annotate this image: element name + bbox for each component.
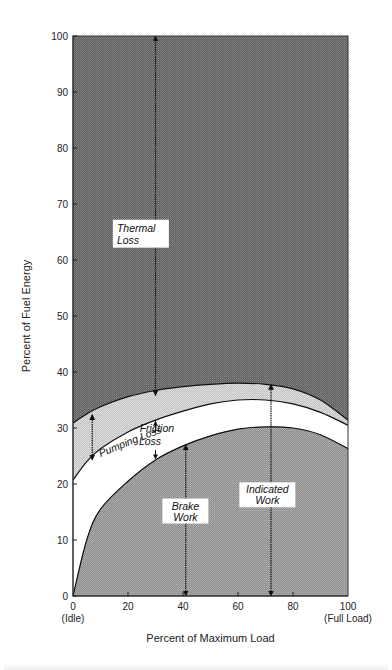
x-tick-sublabel-idle: (Idle) [62,613,85,624]
y-tick-label: 70 [57,199,69,210]
y-tick-label: 0 [62,591,68,602]
brake-work-label-line2: Work [173,511,198,523]
y-axis-title: Percent of Fuel Energy [20,259,32,372]
y-tick-label: 50 [57,311,69,322]
brake-work-label: Brake Work [162,499,208,524]
y-tick-label: 100 [51,31,68,42]
y-tick-label: 80 [57,143,69,154]
indicated-work-label: Indicated Work [239,482,295,507]
x-tick-label: 80 [287,601,299,612]
x-tick-label: 60 [232,601,244,612]
y-tick-label: 20 [57,479,69,490]
fuel-energy-chart: 0102030405060708090100 020406080100 Perc… [0,0,392,670]
thermal-loss-label-line1: Thermal [117,222,156,234]
x-axis-title: Percent of Maximum Load [146,632,274,644]
thermal-loss-label: Thermal Loss [113,220,169,248]
y-tick-label: 90 [57,87,69,98]
x-tick-label: 0 [70,601,76,612]
x-tick-label: 40 [177,601,189,612]
friction-loss-label-line2: Loss [139,435,162,447]
y-tick-label: 60 [57,255,69,266]
indicated-work-label-line2: Work [255,494,280,506]
friction-loss-label-line1: Friction [140,422,175,434]
thermal-loss-label-line2: Loss [117,234,140,246]
cut-off-caption [4,664,388,670]
y-tick-label: 10 [57,535,69,546]
x-tick-sublabel-full-load: (Full Load) [324,613,372,624]
x-tick-label: 100 [340,601,357,612]
y-tick-label: 40 [57,367,69,378]
y-tick-label: 30 [57,423,69,434]
x-tick-label: 20 [122,601,134,612]
